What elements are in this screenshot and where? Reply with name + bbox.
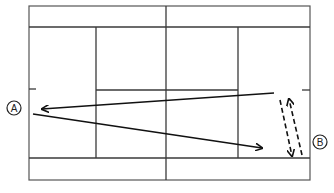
tennis-court-diagram: A B xyxy=(0,0,334,193)
player-a-label: A xyxy=(11,103,18,114)
player-b-marker: B xyxy=(313,135,327,149)
court-svg: A B xyxy=(0,0,334,193)
movement-arrow-down xyxy=(280,100,292,156)
shot-arrow-b-to-a xyxy=(42,93,274,109)
player-b-label: B xyxy=(317,137,324,148)
shot-arrow-a-to-b xyxy=(33,114,262,148)
movement-arrow-up xyxy=(289,99,302,155)
player-a-marker: A xyxy=(7,101,21,115)
